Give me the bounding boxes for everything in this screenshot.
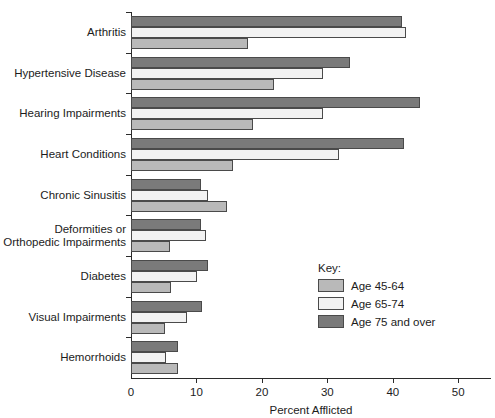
- y-axis-tick: [126, 297, 131, 298]
- bar: [131, 241, 170, 252]
- bar: [131, 363, 178, 374]
- x-axis-tick: [327, 378, 328, 383]
- bar: [131, 149, 339, 160]
- category-label: Hemorrhoids: [60, 351, 126, 364]
- bar: [131, 138, 404, 149]
- y-axis-tick: [126, 134, 131, 135]
- bar: [131, 271, 197, 282]
- bar: [131, 352, 166, 363]
- bar: [131, 160, 233, 171]
- category-label: Arthritis: [87, 26, 126, 39]
- legend-label: Age 45-64: [351, 280, 404, 292]
- category-label-column: ArthritisHypertensive DiseaseHearing Imp…: [0, 0, 126, 418]
- x-axis-line: [131, 378, 491, 379]
- legend-swatch: [318, 297, 344, 310]
- legend-rows: Age 45-64Age 65-74Age 75 and over: [318, 277, 435, 330]
- x-axis-tick-label: 50: [452, 386, 465, 398]
- x-axis-tick-label: 0: [128, 386, 134, 398]
- legend-title: Key:: [318, 262, 435, 274]
- bar: [131, 230, 206, 241]
- y-axis-tick: [126, 256, 131, 257]
- bar: [131, 341, 178, 352]
- legend-label: Age 75 and over: [351, 316, 435, 328]
- bar-chart: ArthritisHypertensive DiseaseHearing Imp…: [0, 0, 495, 418]
- category-label: Heart Conditions: [40, 148, 126, 161]
- bar: [131, 323, 165, 334]
- bar: [131, 312, 187, 323]
- bar: [131, 282, 171, 293]
- x-axis-tick: [262, 378, 263, 383]
- x-axis-tick: [458, 378, 459, 383]
- x-axis-title: Percent Afflicted: [131, 404, 491, 416]
- category-label: Diabetes: [81, 270, 126, 283]
- y-axis-tick: [126, 337, 131, 338]
- y-axis-tick: [126, 175, 131, 176]
- bar: [131, 179, 201, 190]
- legend-item: Age 65-74: [318, 295, 435, 312]
- x-axis-tick-label: 20: [256, 386, 269, 398]
- legend-swatch: [318, 279, 344, 292]
- bar: [131, 190, 208, 201]
- bar: [131, 108, 323, 119]
- x-axis-tick-label: 40: [386, 386, 399, 398]
- x-axis-tick-label: 10: [190, 386, 203, 398]
- legend-label: Age 65-74: [351, 298, 404, 310]
- x-axis-tick: [393, 378, 394, 383]
- bar: [131, 97, 420, 108]
- y-axis-tick: [126, 12, 131, 13]
- legend-item: Age 45-64: [318, 277, 435, 294]
- y-axis-tick: [126, 93, 131, 94]
- bar: [131, 301, 202, 312]
- category-label: Deformities or Orthopedic Impairments: [3, 223, 126, 248]
- bar: [131, 201, 227, 212]
- bar: [131, 57, 350, 68]
- category-label: Hearing Impairments: [19, 107, 126, 120]
- bar: [131, 68, 323, 79]
- bar: [131, 38, 248, 49]
- y-axis-tick: [126, 53, 131, 54]
- category-label: Chronic Sinusitis: [40, 189, 126, 202]
- bar: [131, 27, 406, 38]
- x-axis-tick: [196, 378, 197, 383]
- bar: [131, 260, 208, 271]
- legend-swatch: [318, 315, 344, 328]
- category-label: Hypertensive Disease: [14, 67, 126, 80]
- bar: [131, 16, 402, 27]
- category-label: Visual Impairments: [28, 311, 126, 324]
- bar: [131, 219, 201, 230]
- bar: [131, 79, 274, 90]
- plot-area: 01020304050 Percent Afflicted: [131, 12, 491, 378]
- x-axis-tick-label: 30: [321, 386, 334, 398]
- y-axis-tick: [126, 215, 131, 216]
- legend-item: Age 75 and over: [318, 313, 435, 330]
- bar: [131, 119, 253, 130]
- legend: Key: Age 45-64Age 65-74Age 75 and over: [318, 262, 435, 331]
